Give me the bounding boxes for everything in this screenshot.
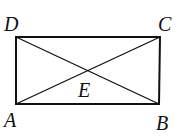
label-e: E <box>77 79 90 101</box>
side-cb <box>159 37 160 104</box>
label-d: D <box>3 13 19 35</box>
rectangle-diagram: D C A B E <box>0 0 186 138</box>
label-a: A <box>2 109 17 131</box>
label-c: C <box>158 13 172 35</box>
label-b: B <box>156 112 168 134</box>
